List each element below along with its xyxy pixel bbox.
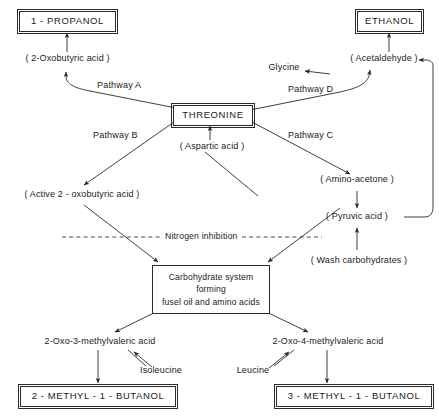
label-pathway-c: Pathway C bbox=[288, 130, 333, 140]
node-acetaldehyde[interactable]: ( Acetaldehyde ) bbox=[340, 54, 428, 63]
pyruvic-to-acetaldehyde-line bbox=[404, 60, 433, 217]
node-2-methyl-1-butanol[interactable]: 2 - METHYL - 1 - BUTANOL bbox=[20, 386, 176, 407]
node-glycine[interactable]: Glycine bbox=[263, 63, 305, 72]
pathway-diagram: 1 - PROPANOL ETHANOL THREONINE 2 - METHY… bbox=[0, 0, 439, 416]
label-pathway-d: Pathway D bbox=[288, 84, 333, 94]
arrow-oxo4-to-leucine bbox=[274, 350, 294, 366]
node-active-2-oxobutyric-acid[interactable]: ( Active 2 - oxobutyric acid ) bbox=[10, 190, 154, 199]
aspartic-diagonal-line bbox=[205, 152, 258, 196]
node-wash-carbohydrates[interactable]: ( Wash carbohydrates ) bbox=[297, 256, 421, 265]
arrow-to-glycine bbox=[305, 71, 330, 74]
label-pathway-b: Pathway B bbox=[93, 130, 138, 140]
node-2-oxobutyric-acid[interactable]: ( 2-Oxobutyric acid ) bbox=[5, 54, 130, 63]
node-2-oxo-3-methylvaleric-acid[interactable]: 2-Oxo-3-methylvaleric acid bbox=[33, 337, 167, 346]
carb-system-line-2: forming bbox=[159, 283, 263, 295]
node-aspartic-acid[interactable]: ( Aspartic acid ) bbox=[172, 142, 252, 151]
node-3-methyl-1-butanol[interactable]: 3 - METHYL - 1 - BUTANOL bbox=[276, 386, 432, 407]
node-1-propanol[interactable]: 1 - PROPANOL bbox=[19, 11, 116, 32]
label-pathway-a: Pathway A bbox=[97, 80, 141, 90]
label-nitrogen-inhibition: Nitrogen inhibition bbox=[163, 231, 240, 241]
node-amino-acetone[interactable]: ( Amino-acetone ) bbox=[310, 175, 404, 184]
node-isoleucine[interactable]: Isoleucine bbox=[133, 366, 189, 375]
node-pyruvic-acid[interactable]: ( Pyruvic acid ) bbox=[316, 212, 398, 221]
node-threonine[interactable]: THREONINE bbox=[173, 105, 253, 126]
node-ethanol[interactable]: ETHANOL bbox=[357, 11, 422, 32]
node-2-oxo-4-methylvaleric-acid[interactable]: 2-Oxo-4-methylvaleric acid bbox=[261, 337, 395, 346]
carb-system-line-1: Carbohydrate system bbox=[159, 271, 263, 283]
carb-system-line-3: fusel oil and amino acids bbox=[159, 296, 263, 308]
node-carbohydrate-system[interactable]: Carbohydrate system forming fusel oil an… bbox=[152, 265, 270, 314]
arrow-activeoxo-to-carbsystem bbox=[84, 205, 158, 262]
pathway-a-line bbox=[66, 72, 176, 108]
arrow-oxo3-to-isoleucine bbox=[128, 350, 146, 366]
node-leucine[interactable]: Leucine bbox=[230, 366, 276, 375]
